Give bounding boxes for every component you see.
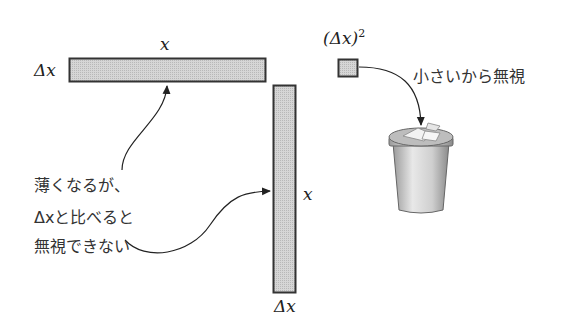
side-strip-width-label: Δx <box>274 296 296 316</box>
top-strip-length-label: x <box>160 34 170 54</box>
side-strip-length-label: x <box>303 184 313 204</box>
small-square <box>339 60 358 77</box>
arrow-to-horizontal-strip <box>122 86 167 170</box>
arrow-to-trash <box>359 67 421 125</box>
square-area-exponent: 2 <box>358 27 365 40</box>
trash-can-icon <box>389 123 453 213</box>
strip-note-line-1: 薄くなるが、 <box>34 172 130 196</box>
square-area-label: (Δx)2 <box>323 27 365 48</box>
square-note: 小さいから無視 <box>413 63 525 87</box>
diagram-canvas <box>0 0 583 329</box>
square-area-base: (Δx) <box>323 28 358 48</box>
strip-note-line-2: Δxと比べると <box>34 204 134 228</box>
horizontal-strip <box>70 59 266 82</box>
arrow-to-vertical-strip <box>125 191 270 253</box>
vertical-strip <box>274 86 296 293</box>
strip-note-line-3: 無視できない <box>34 233 130 257</box>
top-strip-width-label: Δx <box>34 60 56 80</box>
